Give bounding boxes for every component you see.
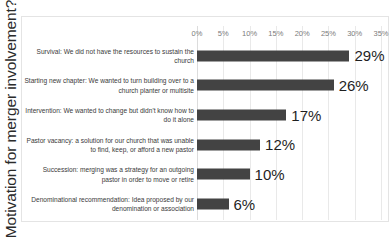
category-label: Starting new chapter: We wanted to turn … [24, 76, 194, 94]
chart-row: Pastor vacancy: a solution for our churc… [0, 130, 391, 160]
bar [197, 80, 334, 91]
category-label: Survival: We did not have the resources … [24, 47, 194, 65]
bar [197, 110, 286, 121]
x-axis-tick-35pct: 35% [373, 29, 388, 38]
x-axis-tick-25pct: 25% [321, 29, 336, 38]
bar-value-label: 29% [354, 47, 384, 64]
category-label: Succession: merging was a strategy for a… [24, 165, 194, 183]
bar-value-label: 17% [291, 107, 321, 124]
category-label: Denominational recommendation: Idea prop… [24, 195, 194, 213]
category-label: Pastor vacancy: a solution for our churc… [24, 136, 194, 154]
bar-value-label: 6% [234, 196, 256, 213]
chart-row: Starting new chapter: We wanted to turn … [0, 71, 391, 101]
bar [197, 199, 229, 210]
bar-value-label: 12% [265, 136, 295, 153]
x-axis-tick-labels: 0%5%10%15%20%25%30%35% [176, 29, 386, 40]
x-axis-tick-30pct: 30% [347, 29, 362, 38]
x-axis-tick-15pct: 15% [268, 29, 283, 38]
bar-value-label: 26% [339, 77, 369, 94]
bar [197, 169, 250, 180]
chart-row: Survival: We did not have the resources … [0, 41, 391, 71]
chart-row: Succession: merging was a strategy for a… [0, 160, 391, 190]
chart-row: Denominational recommendation: Idea prop… [0, 189, 391, 219]
bar [197, 50, 349, 61]
bar-chart: Motivation for merger involvement? 0%5%1… [0, 0, 391, 243]
x-axis-tick-20pct: 20% [295, 29, 310, 38]
chart-row: Intervention: We wanted to change but di… [0, 100, 391, 130]
x-axis-tick-5pct: 5% [218, 29, 229, 38]
x-axis-tick-10pct: 10% [242, 29, 257, 38]
chart-rows: Survival: We did not have the resources … [0, 41, 391, 219]
x-axis-tick-0pct: 0% [192, 29, 203, 38]
bar [197, 139, 260, 150]
category-label: Intervention: We wanted to change but di… [24, 106, 194, 124]
bar-value-label: 10% [255, 166, 285, 183]
